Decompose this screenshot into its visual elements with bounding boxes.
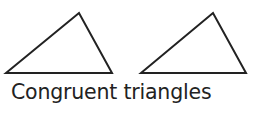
triangle-right <box>141 13 246 73</box>
figure-caption: Congruent triangles <box>11 80 211 104</box>
triangle-left <box>6 13 112 73</box>
